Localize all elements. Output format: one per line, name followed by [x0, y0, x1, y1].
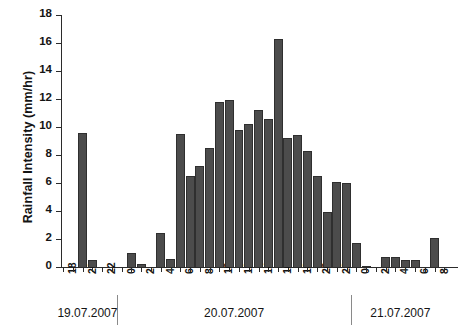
y-tick-label: 4 — [46, 203, 52, 215]
bar — [362, 266, 371, 267]
x-tick — [337, 268, 338, 272]
x-tick — [356, 268, 357, 272]
x-tick — [141, 268, 142, 272]
bar — [195, 166, 204, 267]
bar — [274, 39, 283, 267]
x-tick — [151, 268, 152, 272]
y-tick: 10 — [56, 127, 61, 128]
x-tick — [83, 268, 84, 272]
bar — [401, 260, 410, 267]
x-tick — [161, 268, 162, 272]
x-tick — [122, 268, 123, 272]
bar — [381, 257, 390, 267]
day-label: 19.07.2007 — [37, 306, 137, 320]
day-label: 20.07.2007 — [184, 306, 284, 320]
x-tick — [395, 268, 396, 272]
y-tick: 6 — [56, 183, 61, 184]
bar — [215, 102, 224, 267]
x-tick — [327, 268, 328, 272]
y-tick-label: 12 — [39, 91, 52, 103]
rainfall-intensity-chart: Rainfall Intensity (mm/hr) 0246810121416… — [0, 0, 463, 333]
bar — [313, 176, 322, 267]
y-tick-label: 14 — [39, 63, 52, 75]
x-tick — [190, 268, 191, 272]
bar — [332, 182, 341, 267]
x-tick — [92, 268, 93, 272]
bar — [352, 243, 361, 267]
bar — [411, 260, 420, 267]
x-tick — [259, 268, 260, 272]
y-tick: 12 — [56, 99, 61, 100]
x-tick — [63, 268, 64, 272]
x-tick — [288, 268, 289, 272]
x-tick — [200, 268, 201, 272]
bar — [342, 183, 351, 267]
x-tick — [298, 268, 299, 272]
x-tick — [415, 268, 416, 272]
x-tick — [376, 268, 377, 272]
x-tick — [219, 268, 220, 272]
bar — [166, 259, 175, 267]
bar — [391, 257, 400, 267]
x-tick — [249, 268, 250, 272]
y-tick: 16 — [56, 43, 61, 44]
y-tick: 0 — [56, 267, 61, 268]
bar — [137, 264, 146, 267]
x-tick — [386, 268, 387, 272]
y-tick-label: 2 — [46, 231, 52, 243]
y-tick: 2 — [56, 239, 61, 240]
x-tick — [171, 268, 172, 272]
bar — [88, 260, 97, 267]
x-tick — [425, 268, 426, 272]
bar — [244, 124, 253, 267]
x-tick — [435, 268, 436, 272]
y-tick: 18 — [56, 15, 61, 16]
y-tick-label: 0 — [46, 259, 52, 271]
bar — [323, 212, 332, 267]
y-tick-label: 16 — [39, 35, 52, 47]
x-tick — [210, 268, 211, 272]
bar — [430, 238, 439, 267]
y-tick-label: 6 — [46, 175, 52, 187]
y-tick-label: 18 — [39, 7, 52, 19]
x-tick — [112, 268, 113, 272]
bar — [254, 110, 263, 267]
x-tick — [366, 268, 367, 272]
x-tick — [347, 268, 348, 272]
x-tick — [131, 268, 132, 272]
x-tick — [405, 268, 406, 272]
bar — [283, 138, 292, 267]
bar — [205, 148, 214, 267]
y-tick: 14 — [56, 71, 61, 72]
bar — [235, 130, 244, 267]
bar — [186, 176, 195, 267]
x-tick — [229, 268, 230, 272]
x-tick — [268, 268, 269, 272]
x-tick — [317, 268, 318, 272]
day-label: 21.07.2007 — [350, 306, 450, 320]
x-tick — [180, 268, 181, 272]
bar — [176, 134, 185, 267]
bar — [225, 100, 234, 267]
x-tick — [73, 268, 74, 272]
y-tick: 4 — [56, 211, 61, 212]
x-tick — [102, 268, 103, 272]
bar — [264, 119, 273, 267]
y-axis-line — [61, 15, 62, 268]
x-tick — [444, 268, 445, 272]
x-tick — [239, 268, 240, 272]
bar — [127, 253, 136, 267]
y-tick-label: 10 — [39, 119, 52, 131]
y-axis-title: Rainfall Intensity (mm/hr) — [21, 27, 35, 267]
bar — [156, 233, 165, 267]
bar — [78, 133, 87, 267]
x-tick — [278, 268, 279, 272]
y-tick: 8 — [56, 155, 61, 156]
bar — [303, 151, 312, 267]
x-tick — [307, 268, 308, 272]
bar — [293, 135, 302, 267]
plot-area: 024681012141618 182022024681012141618202… — [61, 15, 458, 268]
y-tick-label: 8 — [46, 147, 52, 159]
